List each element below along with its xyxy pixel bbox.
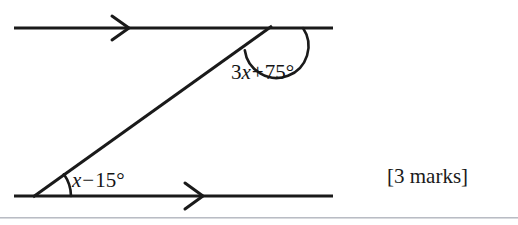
geometry-figure: 3x+75° x−15° [3 marks] (0, 0, 518, 225)
top-angle-operator: + (251, 60, 265, 84)
transversal-line (33, 26, 272, 197)
acute-angle-arc (64, 174, 71, 196)
top-angle-label: 3x+75° (231, 62, 294, 83)
bottom-angle-variable: x (72, 168, 81, 192)
top-angle-constant: 75° (265, 60, 294, 84)
marks-allocation-text: [3 marks] (387, 166, 468, 187)
bottom-angle-constant: 15° (95, 168, 124, 192)
page-divider-rule-shadow (0, 218, 518, 219)
top-angle-variable: x (242, 60, 251, 84)
bottom-angle-operator: − (81, 168, 95, 192)
bottom-angle-label: x−15° (72, 170, 125, 191)
top-angle-coefficient: 3 (231, 60, 242, 84)
